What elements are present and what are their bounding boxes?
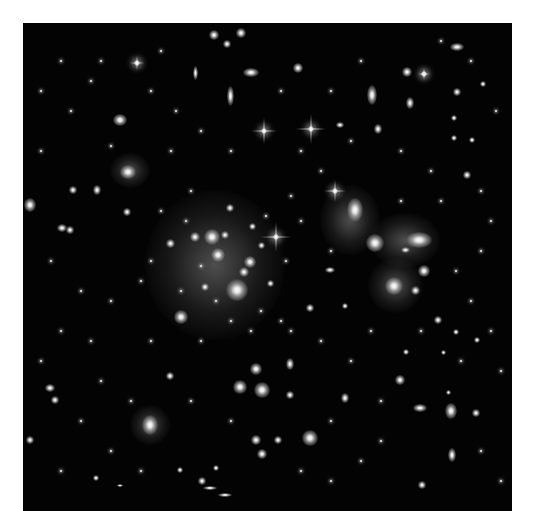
faint-star [110, 450, 112, 452]
galaxy [463, 171, 471, 179]
galaxy-cluster-image [23, 23, 512, 511]
faint-star [470, 300, 472, 302]
faint-star [300, 220, 302, 222]
galaxy [120, 165, 136, 179]
galaxy [406, 232, 432, 248]
galaxy [45, 384, 55, 392]
galaxy [117, 484, 123, 487]
galaxy [226, 204, 234, 212]
galaxy [403, 349, 409, 355]
galaxy [57, 224, 67, 232]
galaxy [198, 477, 206, 485]
faint-star [150, 260, 152, 262]
galaxy [395, 375, 405, 385]
galaxy [286, 391, 294, 399]
galaxy [166, 372, 174, 380]
galaxy [336, 122, 344, 128]
faint-star [50, 260, 52, 262]
galaxy [204, 229, 220, 245]
faint-star [90, 80, 92, 82]
faint-star [190, 400, 192, 402]
faint-star [470, 60, 472, 62]
galaxy [347, 198, 363, 222]
galaxy [257, 449, 267, 459]
faint-star [140, 280, 142, 282]
galaxy [51, 396, 59, 404]
faint-star [200, 340, 202, 342]
faint-star [480, 190, 482, 192]
diffuse-cluster-light [145, 190, 285, 340]
galaxy [233, 380, 247, 394]
galaxy [243, 68, 259, 77]
galaxy [66, 226, 74, 234]
galaxy [474, 337, 480, 343]
faint-star [265, 215, 267, 217]
galaxy [218, 493, 232, 497]
galaxy [286, 358, 294, 370]
faint-star [100, 380, 102, 382]
galaxy [411, 286, 420, 295]
galaxy [342, 303, 348, 309]
faint-star [90, 340, 92, 342]
galaxy [366, 234, 384, 252]
galaxy [236, 28, 246, 38]
faint-star [300, 150, 302, 152]
faint-star [330, 420, 332, 422]
galaxy [401, 247, 410, 253]
faint-star [175, 110, 177, 112]
galaxy [453, 329, 459, 335]
galaxy [306, 304, 314, 312]
galaxy [113, 114, 127, 126]
faint-star [70, 110, 72, 112]
galaxy [446, 390, 451, 395]
faint-star [230, 420, 232, 422]
galaxy [258, 242, 265, 249]
faint-star [60, 330, 62, 332]
faint-star [460, 360, 462, 362]
galaxy [177, 467, 183, 473]
faint-star [480, 250, 482, 252]
galaxy [251, 435, 261, 445]
galaxy [221, 231, 229, 239]
faint-star [285, 260, 287, 262]
faint-star [495, 110, 497, 112]
galaxy [211, 248, 225, 262]
galaxy [385, 277, 403, 295]
faint-star [350, 140, 352, 142]
galaxy [203, 486, 217, 490]
faint-star [40, 150, 42, 152]
galaxy [249, 223, 256, 230]
faint-star [380, 440, 382, 442]
faint-star [60, 470, 62, 472]
galaxy [93, 475, 99, 481]
faint-star [440, 40, 442, 42]
galaxy [302, 430, 318, 446]
galaxy [213, 465, 219, 471]
faint-star [280, 320, 282, 322]
faint-star [280, 90, 282, 92]
galaxy [451, 135, 457, 141]
faint-star [400, 200, 402, 202]
galaxy [227, 86, 234, 106]
faint-star [320, 170, 322, 172]
galaxy [223, 40, 231, 48]
faint-star [330, 250, 332, 252]
faint-star [500, 370, 502, 372]
faint-star [500, 480, 502, 482]
galaxy [406, 97, 414, 109]
galaxy [374, 124, 382, 134]
faint-star [400, 150, 402, 152]
galaxy [418, 481, 426, 489]
faint-star [110, 300, 112, 302]
faint-star [480, 450, 482, 452]
galaxy [166, 239, 175, 248]
faint-star [150, 90, 152, 92]
galaxy [418, 265, 430, 277]
faint-star [215, 300, 217, 302]
faint-star [350, 360, 352, 362]
faint-star [80, 420, 82, 422]
faint-star [250, 330, 252, 332]
faint-star [490, 220, 492, 222]
faint-star [100, 60, 102, 62]
galaxy [267, 280, 274, 287]
